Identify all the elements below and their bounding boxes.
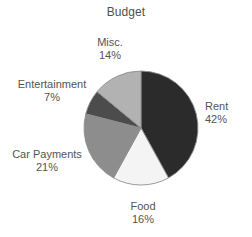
pie-label-food: Food 16% bbox=[116, 200, 170, 226]
pie-slice-group bbox=[84, 71, 198, 185]
pie-label-food-name: Food bbox=[116, 200, 170, 213]
pie-label-misc-name: Misc. bbox=[83, 36, 137, 49]
pie-label-rent: Rent 42% bbox=[205, 100, 249, 126]
pie-label-car-payments: Car Payments 21% bbox=[5, 148, 89, 174]
pie-label-misc: Misc. 14% bbox=[83, 36, 137, 62]
pie-label-misc-value: 14% bbox=[83, 49, 137, 62]
pie-chart: Budget Misc. 14% Entertainment 7% Car Pa… bbox=[0, 0, 252, 237]
pie-label-car-payments-value: 21% bbox=[5, 161, 89, 174]
pie-label-rent-value: 42% bbox=[205, 113, 249, 126]
pie-label-entertainment-name: Entertainment bbox=[10, 78, 94, 91]
pie-label-entertainment-value: 7% bbox=[10, 91, 94, 104]
pie-label-rent-name: Rent bbox=[205, 100, 249, 113]
pie-label-entertainment: Entertainment 7% bbox=[10, 78, 94, 104]
pie-label-food-value: 16% bbox=[116, 213, 170, 226]
pie-label-car-payments-name: Car Payments bbox=[5, 148, 89, 161]
